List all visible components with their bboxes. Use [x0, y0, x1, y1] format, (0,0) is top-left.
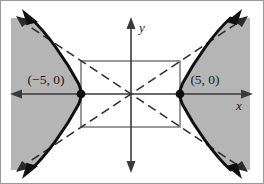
hyperbola-figure: (−5, 0) (5, 0) x y	[0, 0, 264, 184]
right-vertex-dot	[176, 90, 185, 99]
hyperbola-graph-svg: (−5, 0) (5, 0) x y	[0, 0, 264, 184]
left-vertex-dot	[77, 90, 86, 99]
y-axis-label: y	[137, 20, 145, 35]
x-axis-label: x	[235, 98, 242, 113]
y-axis-arrow-down	[127, 161, 136, 173]
left-vertex-label: (−5, 0)	[28, 72, 65, 87]
right-vertex-label: (5, 0)	[190, 72, 219, 87]
y-axis-arrow-up	[127, 17, 136, 29]
